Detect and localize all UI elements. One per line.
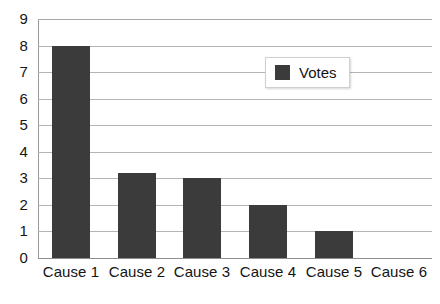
gridline-1: [38, 231, 432, 232]
y-tick-label-1: 1: [2, 223, 28, 238]
gridline-3: [38, 178, 432, 179]
legend-label-votes: Votes: [299, 65, 337, 80]
bar-chart: 9876543210 Cause 1Cause 2Cause 3Cause 4C…: [0, 0, 440, 304]
x-label-6: Cause 6: [366, 263, 432, 281]
bar-4: [249, 205, 287, 258]
y-tick-label-0: 0: [2, 250, 28, 265]
gridline-6: [38, 99, 432, 100]
gridline-9: [38, 19, 432, 20]
chart-legend: Votes: [265, 57, 350, 88]
gridline-5: [38, 125, 432, 126]
y-tick-label-9: 9: [2, 11, 28, 26]
y-tick-label-2: 2: [2, 197, 28, 212]
bar-3: [183, 178, 221, 258]
x-axis-category-labels: Cause 1Cause 2Cause 3Cause 4Cause 5Cause…: [38, 263, 432, 285]
y-tick-label-6: 6: [2, 91, 28, 106]
gridline-0: [38, 258, 432, 259]
y-tick-label-4: 4: [2, 144, 28, 159]
x-label-4: Cause 4: [235, 263, 301, 281]
y-tick-label-7: 7: [2, 64, 28, 79]
plot-frame: [38, 19, 432, 258]
gridline-8: [38, 46, 432, 47]
caption-sliver: [96, 291, 346, 304]
x-label-1: Cause 1: [38, 263, 104, 281]
x-label-2: Cause 2: [104, 263, 170, 281]
gridline-4: [38, 152, 432, 153]
x-label-3: Cause 3: [169, 263, 235, 281]
gridline-2: [38, 205, 432, 206]
y-tick-label-5: 5: [2, 117, 28, 132]
y-tick-label-8: 8: [2, 38, 28, 53]
gridline-7: [38, 72, 432, 73]
bar-2: [118, 173, 156, 258]
legend-swatch-icon: [275, 65, 290, 80]
bar-5: [315, 231, 353, 258]
plot-area: [38, 19, 432, 258]
y-tick-label-3: 3: [2, 170, 28, 185]
bar-1: [52, 46, 90, 258]
x-label-5: Cause 5: [301, 263, 367, 281]
